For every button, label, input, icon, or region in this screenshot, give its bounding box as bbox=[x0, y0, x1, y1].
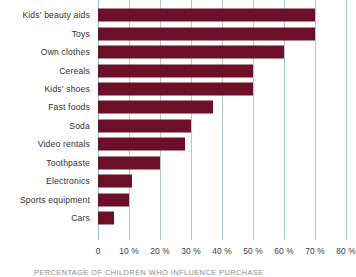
bar bbox=[98, 138, 185, 151]
x-tick-label: 0 bbox=[96, 246, 101, 256]
category-label: Soda bbox=[0, 121, 90, 131]
category-label: Own clothes bbox=[0, 47, 90, 57]
x-tick-label: 50 % bbox=[243, 246, 262, 256]
bar bbox=[98, 82, 253, 95]
x-tick-label: 30 % bbox=[181, 246, 200, 256]
category-label: Toys bbox=[0, 29, 90, 39]
x-tick-label: 40 % bbox=[212, 246, 231, 256]
plot-area bbox=[98, 0, 346, 240]
bar bbox=[98, 27, 315, 40]
category-label: Video rentals bbox=[0, 139, 90, 149]
category-label: Cereals bbox=[0, 66, 90, 76]
category-label: Toothpaste bbox=[0, 158, 90, 168]
bar bbox=[98, 175, 132, 188]
x-tick-label: 10 % bbox=[119, 246, 138, 256]
bar bbox=[98, 46, 284, 59]
gridline-70 bbox=[315, 0, 316, 240]
chart-caption: PERCENTAGE OF CHILDREN WHO INFLUENCE PUR… bbox=[34, 268, 334, 277]
category-label: Fast foods bbox=[0, 102, 90, 112]
x-tick-label: 80 % bbox=[336, 246, 355, 256]
bar bbox=[98, 212, 114, 225]
x-tick-label: 60 % bbox=[274, 246, 293, 256]
bar bbox=[98, 9, 315, 22]
category-label: Electronics bbox=[0, 176, 90, 186]
category-label: Cars bbox=[0, 213, 90, 223]
category-label: Kids' beauty aids bbox=[0, 10, 90, 20]
bar bbox=[98, 64, 253, 77]
bar bbox=[98, 101, 213, 114]
value-axis: 010 %20 %30 %40 %50 %60 %70 %80 % bbox=[98, 240, 346, 260]
bar bbox=[98, 156, 160, 169]
bar bbox=[98, 193, 129, 206]
category-label: Sports equipment bbox=[0, 195, 90, 205]
bar bbox=[98, 119, 191, 132]
x-tick-label: 70 % bbox=[305, 246, 324, 256]
category-label: Kids' shoes bbox=[0, 84, 90, 94]
x-tick-label: 20 % bbox=[150, 246, 169, 256]
gridline-80 bbox=[346, 0, 347, 240]
category-axis-labels: Kids' beauty aidsToysOwn clothesCerealsK… bbox=[0, 0, 94, 240]
